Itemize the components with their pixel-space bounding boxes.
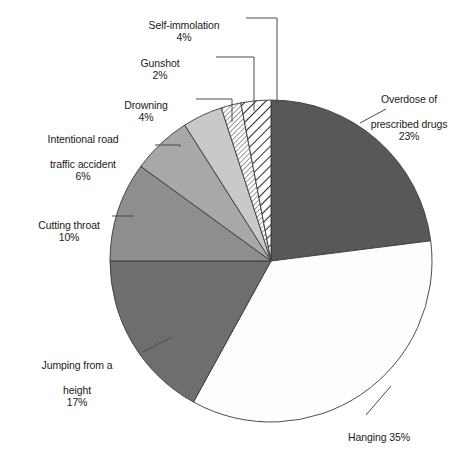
slice-label-jumping-line1: Jumping from a [42,359,113,371]
slice-label-overdose-line2: prescribed drugs [371,118,448,130]
slice-label-jumping-percent: 17% [14,396,140,409]
slice-label-road-traffic-line2: traffic accident [50,158,116,170]
slice-label-self-immolation-percent: 4% [126,31,242,44]
slice-label-jumping: Jumping from a height 17% [14,346,140,422]
pie-chart-figure: Self-immolation 4% Gunshot 2% Drowning 4… [0,0,456,449]
slice-label-gunshot-name: Gunshot [141,57,180,69]
slice-label-self-immolation-name: Self-immolation [149,19,220,31]
slice-label-cutting-throat: Cutting throat 10% [6,206,132,256]
slice-label-overdose-percent: 23% [362,130,456,143]
slice-label-cutting-throat-name: Cutting throat [38,219,100,231]
slice-label-overdose-line1: Overdose of [381,93,437,105]
slice-label-road-traffic-line1: Intentional road [48,133,119,145]
slice-label-road-traffic: Intentional road traffic accident 6% [12,120,154,196]
slice-label-gunshot-percent: 2% [104,69,216,82]
slice-label-road-traffic-percent: 6% [12,170,154,183]
slice-label-hanging: Hanging 35% [348,418,452,443]
slice-label-cutting-throat-percent: 10% [6,231,132,244]
figure-caption [10,441,450,449]
leader-line-self-immolation [246,18,277,103]
slice-label-drowning-name: Drowning [124,99,168,111]
leader-line-hanging [366,386,391,415]
slice-label-jumping-line2: height [63,384,91,396]
slice-label-overdose: Overdose of prescribed drugs 23% [362,80,456,156]
